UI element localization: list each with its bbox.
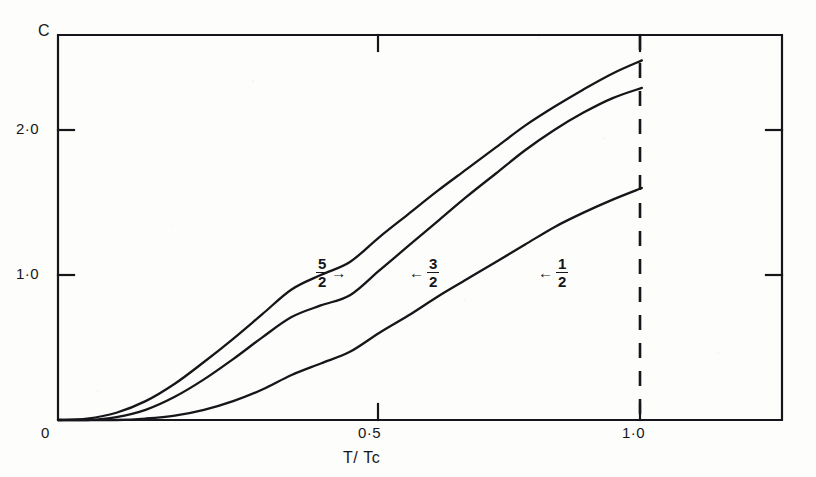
x-axis-title: T/ Tc (343, 449, 380, 467)
origin-tick-label: 0 (41, 424, 50, 441)
arrow-left-icon: ← (409, 265, 424, 280)
x-axis-ticks-top (378, 35, 640, 51)
fraction-one-half: 1 2 (556, 256, 568, 289)
arrow-left-icon: ← (538, 265, 553, 280)
x-tick-label-0-5: 0·5 (358, 424, 381, 441)
fraction-five-halves: 5 2 (316, 256, 328, 289)
y-axis-title: C (38, 22, 50, 40)
y-tick-label-2: 2·0 (16, 120, 39, 137)
y-axis-ticks-right (766, 130, 782, 275)
y-axis-ticks (58, 130, 74, 275)
plot-frame (58, 35, 782, 420)
x-tick-label-1-0: 1·0 (622, 424, 645, 441)
curve-label-spin-three-halves: ← 3 2 (409, 256, 439, 289)
y-tick-label-1: 1·0 (16, 265, 39, 282)
curve-1-over-2 (58, 188, 642, 420)
curve-5-over-2 (58, 60, 642, 420)
plot-canvas (0, 0, 816, 477)
figure-specific-heat-chart: C 0 1·0 2·0 0·5 1·0 T/ Tc 5 2 → ← 3 2 ← … (0, 0, 816, 477)
curve-3-over-2 (58, 88, 642, 420)
x-axis-ticks (378, 404, 640, 420)
curve-label-spin-five-halves: 5 2 → (316, 256, 346, 289)
curve-label-spin-one-half: ← 1 2 (538, 256, 568, 289)
fraction-three-halves: 3 2 (427, 256, 439, 289)
arrow-right-icon: → (331, 265, 346, 280)
